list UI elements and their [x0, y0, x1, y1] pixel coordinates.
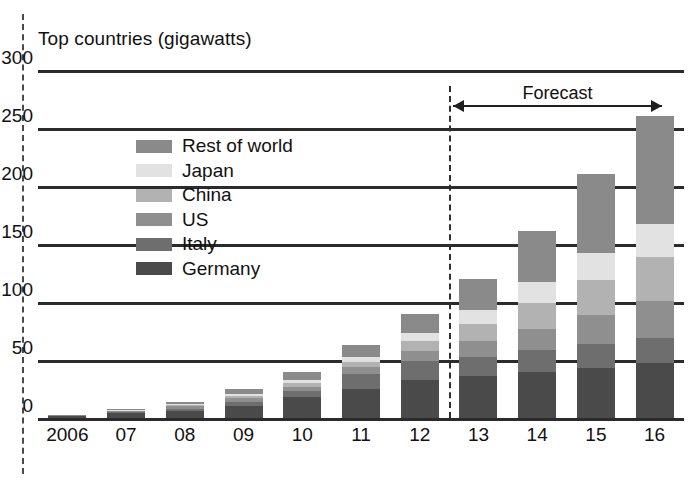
bar-segment-16-china — [636, 257, 674, 301]
bar-segment-09-rest-of-world — [225, 389, 263, 394]
legend-item-label: US — [182, 209, 208, 231]
forecast-arrow-head-right — [651, 100, 662, 112]
bar-segment-16-germany — [636, 363, 674, 418]
bar-segment-15-rest-of-world — [577, 174, 615, 253]
legend-item-rest-of-world[interactable]: Rest of world — [136, 134, 293, 159]
bar-segment-10-china — [283, 383, 321, 386]
bar-segment-16-us — [636, 301, 674, 338]
bar-segment-13-rest-of-world — [459, 279, 497, 310]
legend-swatch-icon — [136, 213, 172, 226]
bar-15 — [577, 174, 615, 418]
bar-segment-2006-germany — [48, 416, 86, 418]
bar-segment-11-rest-of-world — [342, 345, 380, 357]
forecast-divider-line — [449, 86, 451, 418]
bar-segment-08-italy — [166, 409, 204, 411]
bar-segment-09-germany — [225, 406, 263, 418]
bar-14 — [518, 231, 556, 418]
legend-item-label: Rest of world — [182, 135, 293, 157]
bar-segment-10-germany — [283, 397, 321, 418]
bar-segment-15-japan — [577, 253, 615, 280]
bar-segment-13-us — [459, 341, 497, 356]
x-tick-label-09: 09 — [233, 424, 254, 446]
bar-segment-14-us — [518, 329, 556, 350]
bar-09 — [225, 389, 263, 418]
bar-segment-09-italy — [225, 402, 263, 407]
bar-segment-12-germany — [401, 380, 439, 418]
bar-segment-2006-rest-of-world — [48, 415, 86, 416]
legend-swatch-icon — [136, 262, 172, 275]
bar-segment-14-italy — [518, 350, 556, 372]
bar-segment-13-germany — [459, 376, 497, 418]
bar-segment-14-china — [518, 303, 556, 329]
forecast-label: Forecast — [517, 83, 599, 104]
bar-segment-11-japan — [342, 357, 380, 363]
bar-08 — [166, 402, 204, 418]
legend-swatch-icon — [136, 140, 172, 153]
bar-segment-07-rest-of-world — [107, 409, 145, 410]
chart-figure: Top countries (gigawatts) 05010015020025… — [0, 0, 692, 488]
bar-segment-16-italy — [636, 338, 674, 364]
bar-segment-12-china — [401, 341, 439, 350]
bar-segment-07-us — [107, 411, 145, 412]
legend-swatch-icon — [136, 189, 172, 202]
legend-item-italy[interactable]: Italy — [136, 232, 293, 257]
stacked-bars — [0, 0, 692, 488]
x-tick-label-14: 14 — [527, 424, 548, 446]
bar-segment-11-china — [342, 362, 380, 367]
legend-item-japan[interactable]: Japan — [136, 159, 293, 184]
bar-segment-15-us — [577, 315, 615, 344]
bar-segment-12-japan — [401, 333, 439, 341]
x-tick-label-16: 16 — [644, 424, 665, 446]
bar-segment-08-germany — [166, 411, 204, 418]
bar-segment-12-rest-of-world — [401, 314, 439, 334]
bar-segment-11-us — [342, 367, 380, 374]
legend-item-china[interactable]: China — [136, 183, 293, 208]
bar-segment-12-italy — [401, 361, 439, 380]
bar-12 — [401, 314, 439, 418]
bar-11 — [342, 345, 380, 418]
bar-segment-16-rest-of-world — [636, 116, 674, 224]
legend-item-label: Japan — [182, 160, 234, 182]
bar-segment-14-germany — [518, 372, 556, 418]
x-tick-label-11: 11 — [351, 424, 371, 446]
legend-item-label: China — [182, 184, 232, 206]
x-tick-label-12: 12 — [409, 424, 430, 446]
x-tick-label-10: 10 — [292, 424, 313, 446]
bar-segment-08-us — [166, 406, 204, 408]
bar-segment-07-germany — [107, 413, 145, 418]
legend-item-us[interactable]: US — [136, 208, 293, 233]
bar-segment-08-japan — [166, 404, 204, 405]
bar-segment-10-italy — [283, 391, 321, 397]
bar-segment-14-japan — [518, 282, 556, 303]
x-tick-label-15: 15 — [585, 424, 606, 446]
bar-segment-07-japan — [107, 410, 145, 411]
bar-segment-10-japan — [283, 380, 321, 383]
x-tick-label-13: 13 — [468, 424, 489, 446]
chart-legend: Rest of worldJapanChinaUSItalyGermany — [136, 134, 293, 281]
bar-16 — [636, 116, 674, 418]
bar-segment-15-italy — [577, 344, 615, 368]
legend-swatch-icon — [136, 164, 172, 177]
bar-segment-09-japan — [225, 394, 263, 396]
bar-segment-10-rest-of-world — [283, 372, 321, 380]
x-tick-label-2006: 2006 — [46, 424, 88, 446]
legend-item-label: Italy — [182, 233, 217, 255]
bar-segment-15-china — [577, 280, 615, 315]
x-tick-label-08: 08 — [174, 424, 195, 446]
bar-07 — [107, 409, 145, 418]
bar-segment-15-germany — [577, 368, 615, 418]
bar-segment-08-china — [166, 405, 204, 406]
bar-segment-13-china — [459, 324, 497, 341]
forecast-arrow-head-left — [453, 100, 464, 112]
bar-segment-09-china — [225, 396, 263, 398]
bar-segment-13-japan — [459, 310, 497, 324]
x-tick-label-07: 07 — [116, 424, 137, 446]
legend-swatch-icon — [136, 238, 172, 251]
bar-10 — [283, 372, 321, 418]
bar-segment-16-japan — [636, 224, 674, 256]
bar-segment-14-rest-of-world — [518, 231, 556, 282]
bar-2006 — [48, 415, 86, 418]
bar-segment-11-germany — [342, 389, 380, 418]
bar-segment-12-us — [401, 351, 439, 361]
legend-item-germany[interactable]: Germany — [136, 257, 293, 282]
